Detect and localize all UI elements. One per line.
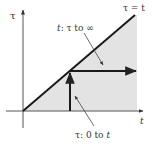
upper-annotation: t: τ to ∞ bbox=[57, 23, 94, 33]
x-axis-label: t bbox=[140, 116, 144, 126]
integration-region-diagram: τ t τ = t t: τ to ∞ τ: 0 to t bbox=[0, 0, 152, 144]
lower-annotation-range: : 0 to bbox=[80, 130, 106, 140]
upper-annotation-range: : τ to ∞ bbox=[61, 23, 94, 33]
diagonal-label: τ = t bbox=[123, 3, 145, 13]
lower-annotation: τ: 0 to t bbox=[75, 130, 110, 140]
lower-annotation-end: t bbox=[106, 130, 110, 140]
y-axis-label: τ bbox=[10, 10, 16, 21]
